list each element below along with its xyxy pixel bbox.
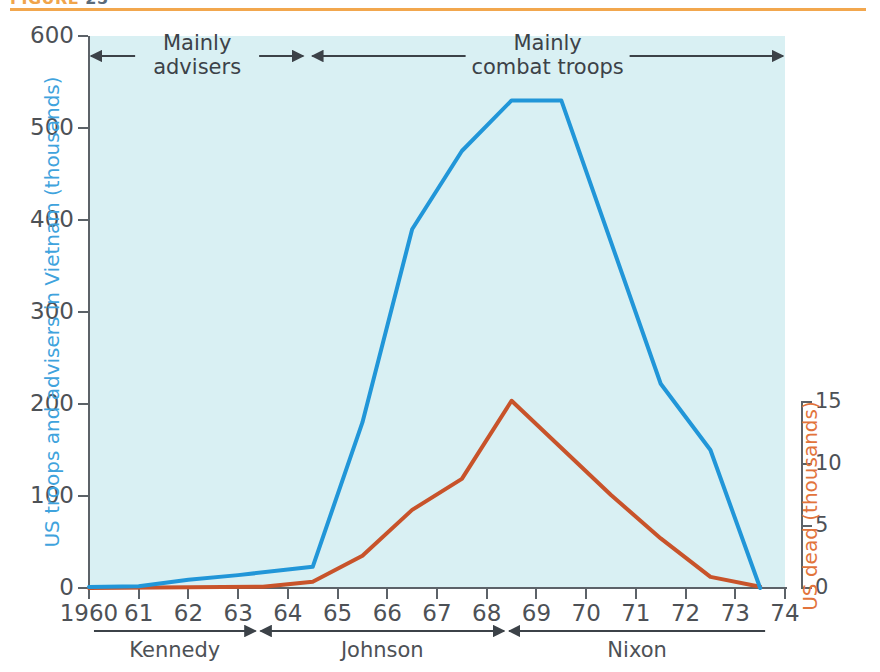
x-axis-tick — [88, 589, 90, 599]
x-axis-tick — [585, 589, 587, 599]
president-label-johnson: Johnson — [272, 638, 492, 662]
x-axis-tick — [386, 589, 388, 599]
x-axis-tick — [237, 589, 239, 599]
y-axis-left-title: US troops and advisers in Vietnam (thous… — [40, 52, 64, 572]
y-axis-left-line — [88, 36, 90, 589]
annotation-label-line1: Mainly — [398, 32, 698, 56]
x-axis-tick — [337, 589, 339, 599]
y-axis-left-tick — [78, 587, 88, 589]
x-axis-tick — [486, 589, 488, 599]
x-axis-tick — [436, 589, 438, 599]
annotation-label-mainly-advisers: Mainlyadvisers — [47, 32, 347, 79]
x-axis-tick — [287, 589, 289, 599]
y-axis-left-tick-label: 0 — [59, 576, 74, 599]
y-axis-left-tick — [78, 219, 88, 221]
x-axis-tick — [635, 589, 637, 599]
plot-area — [89, 36, 785, 588]
president-label-nixon: Nixon — [527, 638, 747, 662]
annotation-label-line2: combat troops — [398, 56, 698, 80]
x-axis-tick — [187, 589, 189, 599]
x-axis-tick — [138, 589, 140, 599]
annotation-label-mainly-combat-troops: Mainlycombat troops — [398, 32, 698, 79]
y-axis-left-tick — [78, 311, 88, 313]
y-axis-left-tick — [78, 403, 88, 405]
x-axis-tick — [535, 589, 537, 599]
x-axis-tick — [685, 589, 687, 599]
annotation-label-line1: Mainly — [47, 32, 347, 56]
y-axis-right-title: US dead (thousands) — [798, 396, 822, 616]
x-axis-tick — [784, 589, 786, 599]
president-label-kennedy: Kennedy — [65, 638, 285, 662]
y-axis-left-tick — [78, 127, 88, 129]
x-axis-tick — [734, 589, 736, 599]
line-chart: 0100200300400500600 051015 1960616263646… — [0, 0, 880, 672]
y-axis-left-tick — [78, 495, 88, 497]
annotation-label-line2: advisers — [47, 56, 347, 80]
